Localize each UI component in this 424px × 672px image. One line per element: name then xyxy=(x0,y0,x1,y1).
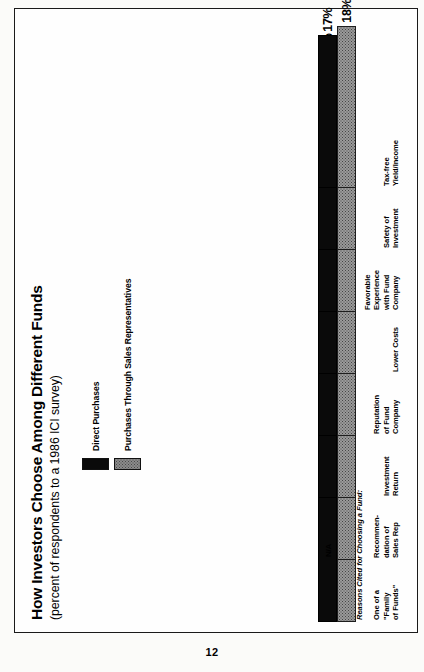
rotated-figure-container: How Investors Choose Among Different Fun… xyxy=(16,10,408,630)
bar-group: 17%18%Tax-free Yield/Income xyxy=(156,28,402,188)
chart-title: How Investors Choose Among Different Fun… xyxy=(28,200,46,620)
printed-page: How Investors Choose Among Different Fun… xyxy=(0,0,424,672)
category-label: Tax-free Yield/Income xyxy=(382,66,401,186)
legend-item: Purchases Through Sales Representatives xyxy=(114,279,141,470)
chart-legend: Direct PurchasesPurchases Through Sales … xyxy=(82,279,146,470)
legend-item: Direct Purchases xyxy=(82,279,109,470)
legend-label: Direct Purchases xyxy=(91,382,101,451)
bar-pair: 17%18% xyxy=(318,28,356,188)
plot-area: Reasons Cited for Choosing a Fund: 51%23… xyxy=(156,10,402,630)
bar-value-label: 18% xyxy=(340,0,354,26)
gray-dotted-swatch-icon xyxy=(114,458,141,470)
bar-chart-figure: How Investors Choose Among Different Fun… xyxy=(16,10,408,630)
title-block: How Investors Choose Among Different Fun… xyxy=(28,200,62,620)
black-swatch-icon xyxy=(82,458,109,470)
chart-subtitle: (percent of respondents to a 1986 ICI su… xyxy=(48,200,62,620)
bar-sales-rep: 18% xyxy=(337,26,356,188)
legend-label: Purchases Through Sales Representatives xyxy=(123,279,133,451)
bar-value-na: N/A xyxy=(323,544,332,560)
bar-sales-rep: 8% xyxy=(337,302,356,374)
page-number: 12 xyxy=(0,646,424,658)
bar-direct-purchases: 17% xyxy=(318,35,337,188)
bar-value-label: 17% xyxy=(321,8,335,35)
